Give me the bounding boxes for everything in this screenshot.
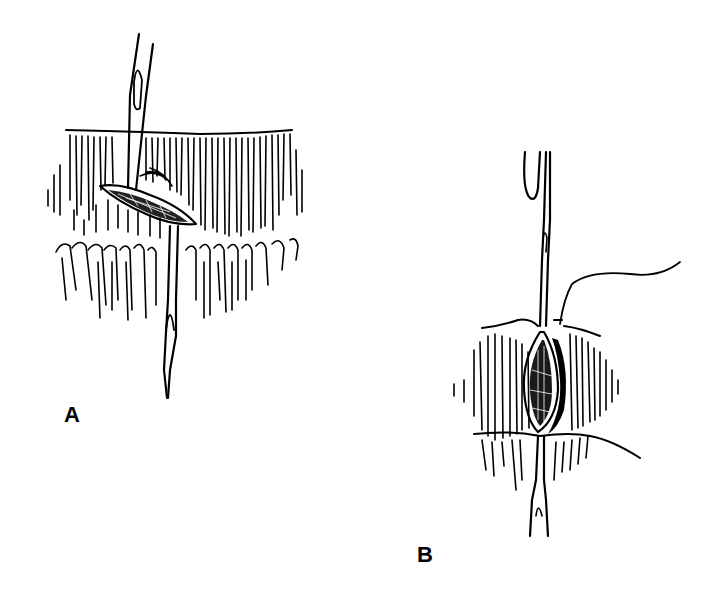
panel-label-a: A (64, 404, 80, 426)
needle-through-tissue-horizontal-drawing (0, 0, 330, 420)
needle-through-tissue-vertical-drawing (440, 140, 710, 560)
panel-a-illustration (0, 0, 330, 420)
panel-b-illustration (440, 140, 710, 560)
panel-label-b: B (417, 544, 433, 566)
